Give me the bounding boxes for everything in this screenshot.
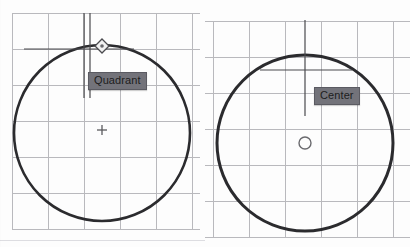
center-snap-canvas[interactable]: [205, 0, 410, 247]
quadrant-snap-tooltip: Quadrant: [88, 72, 147, 90]
quadrant-snap-panel: Quadrant: [0, 0, 205, 247]
cad-snap-screenshot: Quadrant: [0, 0, 410, 247]
quadrant-snap-tooltip-label: Quadrant: [94, 74, 141, 86]
quadrant-snap-marker: [95, 39, 109, 53]
center-snap-tooltip-label: Center: [320, 89, 354, 101]
center-snap-tooltip: Center: [314, 87, 360, 105]
center-cross-marker-left: [97, 125, 107, 135]
quadrant-snap-canvas[interactable]: [0, 0, 205, 247]
center-snap-panel: Center: [205, 0, 410, 247]
center-snap-marker: [299, 137, 311, 149]
